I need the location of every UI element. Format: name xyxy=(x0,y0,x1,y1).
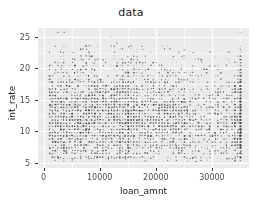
data-points-layer xyxy=(38,28,249,168)
x-tick-label: 20000 xyxy=(143,173,168,182)
x-tick-mark xyxy=(212,168,213,171)
y-tick-mark xyxy=(35,163,38,164)
x-tick-mark xyxy=(44,168,45,171)
x-tick-mark xyxy=(156,168,157,171)
page-title: data xyxy=(0,6,262,19)
x-axis-title: loan_amnt xyxy=(38,186,249,196)
x-tick-mark xyxy=(100,168,101,171)
scatter-plot-figure: data loan_amnt int_rate 5101520250100002… xyxy=(0,0,262,203)
y-tick-label: 5 xyxy=(8,158,30,167)
y-tick-mark xyxy=(35,37,38,38)
y-tick-mark xyxy=(35,100,38,101)
y-tick-mark xyxy=(35,68,38,69)
x-tick-label: 10000 xyxy=(87,173,112,182)
y-tick-label: 10 xyxy=(8,127,30,136)
y-tick-label: 15 xyxy=(8,95,30,104)
y-tick-mark xyxy=(35,131,38,132)
y-tick-label: 25 xyxy=(8,32,30,41)
x-tick-label: 30000 xyxy=(199,173,224,182)
x-tick-label: 0 xyxy=(41,173,46,182)
y-tick-label: 20 xyxy=(8,64,30,73)
plot-panel xyxy=(38,28,249,168)
